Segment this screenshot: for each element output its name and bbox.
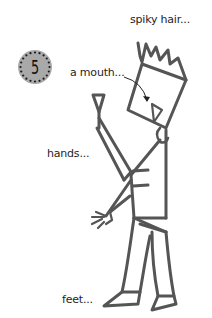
drawing-tutorial-page: 5 spiky hair... a mouth... hands... feet…: [0, 0, 212, 318]
lower-hand: [92, 212, 112, 228]
mouth: [152, 104, 162, 122]
spiky-hair: [138, 43, 186, 80]
left-foot: [104, 292, 140, 306]
right-leg: [152, 232, 158, 296]
right-foot: [152, 296, 176, 310]
left-leg: [122, 218, 134, 292]
stick-figure-drawing: [0, 0, 212, 318]
raised-hand: [93, 95, 104, 112]
